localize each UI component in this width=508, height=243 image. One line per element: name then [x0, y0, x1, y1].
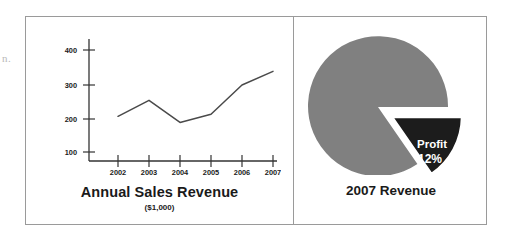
y-tick-label: 300: [65, 81, 77, 90]
revenue-line: [118, 71, 273, 122]
pie-chart-caption: 2007 Revenue: [294, 183, 488, 198]
panel-2007-revenue: Profit 12% 2007 Revenue: [294, 17, 488, 224]
pie-profit-label: Profit: [417, 138, 447, 150]
pie-chart-svg: Profit 12%: [294, 23, 488, 175]
x-tick-label: 2007: [265, 168, 281, 175]
panel-annual-sales-revenue: 400 300 200 100 20: [26, 17, 293, 224]
figure-root: n. 400: [0, 0, 508, 243]
pie-profit-percent: 12%: [418, 152, 442, 166]
x-tick-label: 2004: [172, 168, 189, 175]
margin-text-fragment: n.: [2, 52, 11, 64]
x-tick-label: 2006: [234, 168, 250, 175]
line-chart-caption: Annual Sales Revenue: [26, 184, 293, 200]
y-tick-label: 100: [65, 148, 77, 157]
x-tick-label: 2005: [203, 168, 219, 175]
x-axis-tick-labels: 2002 2003 2004 2005 2006 2007: [110, 168, 281, 175]
y-axis-tick-labels: 400 300 200 100: [65, 46, 77, 157]
line-chart-svg: 400 300 200 100 20: [39, 25, 281, 175]
y-tick-label: 400: [65, 46, 77, 55]
line-chart-subcaption: ($1,000): [26, 203, 293, 212]
x-tick-label: 2002: [110, 168, 126, 175]
line-chart: 400 300 200 100 20: [39, 25, 281, 175]
pie-chart: Profit 12%: [294, 23, 488, 175]
x-tick-label: 2003: [141, 168, 157, 175]
figure-box: 400 300 200 100 20: [25, 16, 487, 225]
y-tick-label: 200: [65, 115, 77, 124]
